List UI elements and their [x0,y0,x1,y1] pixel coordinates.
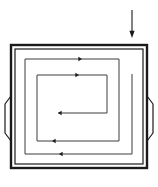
diagram-canvas [0,0,158,187]
figure-container [0,0,158,187]
diagram-background [0,0,158,187]
